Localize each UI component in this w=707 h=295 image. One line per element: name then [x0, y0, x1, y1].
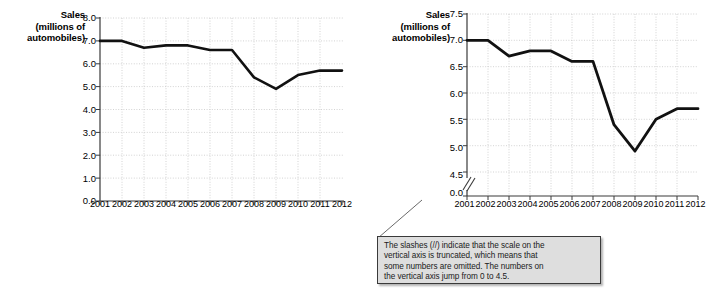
x-tick-label: 2009 [265, 199, 287, 210]
data-line-left [100, 41, 342, 89]
x-tick-label: 2010 [643, 199, 664, 210]
plot-area-left [0, 0, 353, 222]
x-tick-label: 2003 [133, 199, 155, 210]
grid-vertical-right [488, 14, 677, 196]
x-tick-label: 2007 [580, 199, 601, 210]
x-axis-labels-left: 2001 2002 2003 2004 2005 2006 2007 2008 … [89, 199, 353, 210]
x-tick-label: 2006 [559, 199, 580, 210]
x-tick-label: 2001 [454, 199, 475, 210]
x-tick-label: 2002 [111, 199, 133, 210]
x-tick-label: 2009 [622, 199, 643, 210]
x-tick-label: 2012 [331, 199, 353, 210]
x-tick-label: 2008 [601, 199, 622, 210]
x-tick-label: 2005 [538, 199, 559, 210]
data-line-right [467, 40, 698, 151]
x-tick-label: 2005 [177, 199, 199, 210]
callout-line-3: some numbers are omitted. The numbers on [384, 262, 595, 272]
callout-line-4: the vertical axis jump from 0 to 4.5. [384, 272, 595, 282]
x-tick-label: 2004 [517, 199, 538, 210]
x-tick-label: 2011 [664, 199, 685, 210]
x-tick-label: 2011 [309, 199, 331, 210]
x-tick-label: 2002 [475, 199, 496, 210]
x-axis-labels-right: 2001 2002 2003 2004 2005 2006 2007 2008 … [454, 199, 706, 210]
x-tick-label: 2012 [685, 199, 706, 210]
x-tick-label: 2007 [221, 199, 243, 210]
callout-line-2: vertical axis is truncated, which means … [384, 251, 595, 261]
axis-truncation-slashes-icon [463, 177, 475, 191]
x-tick-label: 2010 [287, 199, 309, 210]
x-tick-label: 2001 [89, 199, 111, 210]
callout-note: The slashes (//) indicate that the scale… [377, 236, 601, 284]
x-tick-label: 2006 [199, 199, 221, 210]
chart-left-full-scale: Sales (millions of automobiles) 8.0 7.0 … [0, 0, 353, 222]
plot-area-right [353, 0, 706, 222]
grid-horizontal-left [100, 18, 344, 178]
callout-line-1: The slashes (//) indicate that the scale… [384, 241, 595, 251]
chart-right-truncated-scale: Sales (millions of automobiles) 7.5 7.0 … [353, 0, 706, 222]
x-tick-label: 2003 [496, 199, 517, 210]
x-tick-label: 2008 [243, 199, 265, 210]
grid-horizontal-right [467, 14, 698, 172]
x-tick-label: 2004 [155, 199, 177, 210]
